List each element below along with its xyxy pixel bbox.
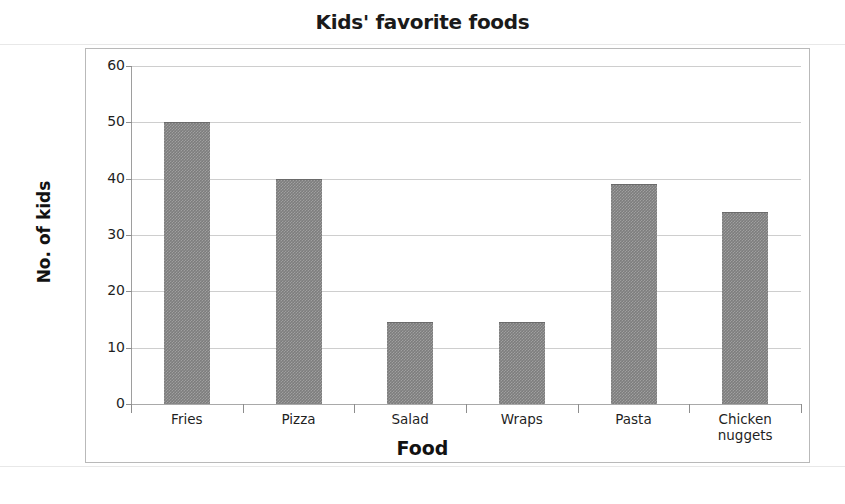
y-tick-label-50: 50 bbox=[77, 113, 125, 129]
x-category-label-fries: Fries bbox=[131, 411, 243, 427]
y-tick-mark-10 bbox=[126, 348, 132, 349]
x-tick-mark-5 bbox=[689, 404, 690, 413]
scan-artifact-1 bbox=[0, 466, 845, 467]
x-tick-mark-1 bbox=[243, 404, 244, 413]
gridline-40 bbox=[131, 179, 801, 180]
plot-area bbox=[131, 66, 801, 404]
y-tick-label-30: 30 bbox=[77, 226, 125, 242]
x-category-label-salad: Salad bbox=[354, 411, 466, 427]
x-tick-mark-6 bbox=[801, 404, 802, 413]
y-tick-mark-30 bbox=[126, 235, 132, 236]
y-tick-label-20: 20 bbox=[77, 282, 125, 298]
bar-salad[interactable] bbox=[387, 322, 433, 404]
scan-artifact-0 bbox=[0, 44, 845, 45]
x-tick-mark-2 bbox=[354, 404, 355, 413]
bar-wraps[interactable] bbox=[499, 322, 545, 404]
y-tick-label-0: 0 bbox=[77, 395, 125, 411]
chart-title: Kids' favorite foods bbox=[0, 10, 845, 34]
x-tick-mark-0 bbox=[131, 404, 132, 413]
x-category-label-pasta: Pasta bbox=[578, 411, 690, 427]
x-tick-mark-4 bbox=[578, 404, 579, 413]
gridline-10 bbox=[131, 348, 801, 349]
x-category-label-pizza: Pizza bbox=[243, 411, 355, 427]
y-tick-mark-20 bbox=[126, 291, 132, 292]
bar-pizza[interactable] bbox=[276, 179, 322, 404]
gridline-30 bbox=[131, 235, 801, 236]
bar-pasta[interactable] bbox=[611, 184, 657, 404]
bar-chicken-nuggets[interactable] bbox=[722, 212, 768, 404]
bar-fries[interactable] bbox=[164, 122, 210, 404]
x-category-label-chicken-nuggets: Chicken nuggets bbox=[689, 411, 801, 443]
y-axis-title: No. of kids bbox=[34, 162, 54, 302]
gridline-50 bbox=[131, 122, 801, 123]
y-tick-mark-40 bbox=[126, 179, 132, 180]
y-tick-label-60: 60 bbox=[77, 57, 125, 73]
x-tick-mark-3 bbox=[466, 404, 467, 413]
y-tick-label-10: 10 bbox=[77, 339, 125, 355]
y-tick-mark-60 bbox=[126, 66, 132, 67]
y-axis-tick-labels: 0102030405060 bbox=[70, 66, 125, 404]
gridline-60 bbox=[131, 66, 801, 67]
y-tick-label-40: 40 bbox=[77, 170, 125, 186]
x-category-label-wraps: Wraps bbox=[466, 411, 578, 427]
gridline-20 bbox=[131, 291, 801, 292]
y-tick-mark-50 bbox=[126, 122, 132, 123]
